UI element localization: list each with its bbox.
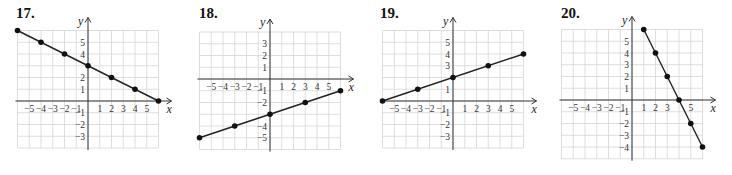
x-tick-label: −3 [592, 103, 602, 113]
y-tick-label: 1 [80, 85, 85, 95]
graph-19: xy−5−4−3−2−1123455431−1−2−3 [366, 0, 549, 175]
x-tick-label: 4 [498, 104, 503, 114]
y-tick-label: −1 [257, 86, 267, 96]
y-tick-label: 3 [445, 61, 450, 71]
y-tick-label: −1 [440, 108, 450, 118]
y-tick-label: −1 [75, 108, 85, 118]
data-point [132, 86, 138, 92]
data-point [38, 39, 44, 45]
y-tick-label: −3 [75, 132, 85, 142]
y-axis-label: y [621, 13, 628, 27]
x-tick-label: −2 [241, 82, 251, 92]
data-point [302, 100, 308, 106]
x-tick-label: −5 [568, 103, 578, 113]
x-tick-label: 5 [326, 82, 331, 92]
x-tick-label: −4 [401, 104, 411, 114]
x-tick-label: −4 [580, 103, 590, 113]
y-tick-label: 3 [262, 39, 267, 49]
x-tick-label: 1 [462, 104, 467, 114]
x-tick-label: 3 [486, 104, 491, 114]
x-tick-label: 5 [688, 103, 693, 113]
graph-panel-20: 20. xy−5−4−3−2−1123554321−1−2−3−4 [549, 0, 732, 175]
graph-panel-18: 18. xy−5−4−3−2−112345321−1−2−4−5 [183, 0, 366, 175]
x-axis-label: x [710, 101, 717, 115]
y-axis-label: y [259, 15, 266, 29]
x-tick-label: 5 [509, 104, 514, 114]
x-tick-label: 3 [665, 103, 670, 113]
data-point [521, 51, 527, 57]
data-point [676, 97, 682, 103]
data-point [380, 98, 386, 104]
y-tick-label: −2 [619, 119, 629, 129]
x-tick-label: −3 [413, 104, 423, 114]
data-point [197, 135, 203, 141]
x-tick-label: −4 [36, 104, 46, 114]
y-tick-label: 3 [624, 60, 629, 70]
data-point [338, 88, 344, 94]
x-tick-label: −5 [389, 104, 399, 114]
data-point [688, 121, 694, 127]
y-tick-label: 4 [624, 49, 629, 59]
x-axis-label: x [166, 102, 173, 116]
data-point [450, 75, 456, 81]
x-tick-label: 2 [474, 104, 479, 114]
y-axis-label: y [442, 14, 449, 28]
data-point [156, 98, 162, 104]
graph-18: xy−5−4−3−2−112345321−1−2−4−5 [183, 0, 366, 175]
graph-panel-17: 17. xy−5−4−3−2−1123455421−1−2−3 [0, 0, 183, 175]
x-tick-label: 3 [303, 82, 308, 92]
x-tick-label: 2 [653, 103, 658, 113]
data-point [15, 28, 21, 34]
data-point [415, 86, 421, 92]
y-tick-label: −4 [257, 122, 267, 132]
data-point [62, 51, 68, 57]
x-tick-label: −2 [424, 104, 434, 114]
y-tick-label: −3 [619, 131, 629, 141]
graph-panel-19: 19. xy−5−4−3−2−1123455431−1−2−3 [366, 0, 549, 175]
graph-20: xy−5−4−3−2−1123554321−1−2−3−4 [549, 0, 732, 175]
x-axis-label: x [348, 80, 355, 94]
x-tick-label: −3 [230, 82, 240, 92]
y-axis-label: y [77, 14, 84, 28]
y-tick-label: 1 [262, 63, 267, 73]
x-tick-label: −5 [206, 82, 216, 92]
data-point [485, 63, 491, 69]
data-point [664, 74, 670, 80]
x-tick-label: 5 [144, 104, 149, 114]
y-tick-label: −2 [257, 98, 267, 108]
x-tick-label: 1 [641, 103, 646, 113]
y-tick-label: 1 [624, 84, 629, 94]
y-tick-label: −2 [440, 120, 450, 130]
y-tick-label: 2 [624, 72, 629, 82]
x-tick-label: 2 [291, 82, 296, 92]
x-tick-label: −2 [59, 104, 69, 114]
data-point [653, 50, 659, 56]
x-axis-label: x [531, 102, 538, 116]
y-tick-label: 2 [80, 73, 85, 83]
y-tick-label: 4 [80, 50, 85, 60]
y-tick-label: 2 [262, 51, 267, 61]
x-tick-label: 4 [315, 82, 320, 92]
y-tick-label: 5 [624, 37, 629, 47]
y-tick-label: −3 [440, 132, 450, 142]
x-tick-label: 2 [109, 104, 114, 114]
x-tick-label: 4 [133, 104, 138, 114]
x-tick-label: −3 [48, 104, 58, 114]
x-tick-label: 3 [121, 104, 126, 114]
y-tick-label: 1 [445, 85, 450, 95]
data-point [700, 144, 706, 150]
x-tick-label: −5 [24, 104, 34, 114]
y-tick-label: 5 [80, 38, 85, 48]
x-tick-label: 1 [97, 104, 102, 114]
x-tick-label: 1 [279, 82, 284, 92]
y-tick-label: −2 [75, 120, 85, 130]
data-point [267, 111, 273, 117]
data-point [232, 123, 238, 129]
y-tick-label: 4 [445, 50, 450, 60]
graph-17: xy−5−4−3−2−1123455421−1−2−3 [0, 0, 183, 175]
y-tick-label: −5 [257, 133, 267, 143]
data-point [109, 75, 115, 81]
y-tick-label: −4 [619, 143, 629, 153]
x-tick-label: −2 [603, 103, 613, 113]
y-tick-label: −1 [619, 107, 629, 117]
